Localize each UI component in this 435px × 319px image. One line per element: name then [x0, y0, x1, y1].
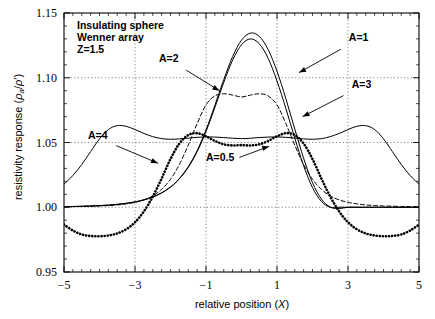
curve-label-a05: A=0.5 [206, 151, 234, 163]
series-line-a3 [64, 94, 419, 207]
leader-line [299, 49, 341, 72]
x-tick-label: 1 [274, 278, 280, 292]
leader-arrowhead [212, 85, 219, 91]
plot-note-line-3: Z=1.5 [77, 43, 104, 55]
curve-label-a4: A=4 [88, 129, 108, 141]
plot-note-layer: Insulating sphereWenner arrayZ=1.5 [77, 19, 164, 55]
chart-svg: A=1A=2A=3A=4A=0.5 −5−3−11350.951.001.051… [0, 0, 435, 319]
plot-note-line-1: Insulating sphere [77, 19, 164, 31]
curve-label-a3: A=3 [352, 78, 372, 90]
series-line-a2 [64, 39, 419, 208]
y-tick-label: 1.10 [36, 71, 57, 85]
series-line-a1 [64, 33, 419, 209]
x-tick-label: 3 [345, 278, 351, 292]
y-tick-label: 0.95 [36, 265, 57, 279]
x-tick-label: −1 [200, 278, 213, 292]
y-tick-label: 1.05 [36, 136, 57, 150]
y-tick-label: 1.15 [36, 6, 57, 20]
y-tick-label: 1.00 [36, 200, 57, 214]
leader-arrowhead [262, 146, 269, 151]
x-axis-label: relative position (X) [64, 298, 420, 310]
series-line-a05 [64, 133, 419, 236]
curve-label-a1: A=1 [349, 31, 369, 43]
x-tick-label: 5 [416, 278, 422, 292]
leader-arrowhead [303, 111, 310, 116]
x-tick-label: −5 [58, 278, 71, 292]
figure-container: A=1A=2A=3A=4A=0.5 −5−3−11350.951.001.051… [0, 0, 435, 319]
curves-layer [64, 33, 419, 236]
annotations-layer: A=1A=2A=3A=4A=0.5 [88, 31, 371, 163]
curve-label-a2: A=2 [159, 52, 179, 64]
x-axis-label-text: relative position (X) [195, 298, 289, 310]
leader-arrowhead [151, 158, 158, 163]
y-axis-label-text: resistivity response (ρa/ρ′) [12, 74, 24, 200]
series-line-a4 [64, 125, 419, 184]
leader-arrowhead [299, 67, 306, 73]
x-tick-label: −3 [129, 278, 142, 292]
y-axis-label: resistivity response (ρa/ρ′) [12, 22, 26, 252]
plot-note-line-2: Wenner array [77, 31, 144, 43]
